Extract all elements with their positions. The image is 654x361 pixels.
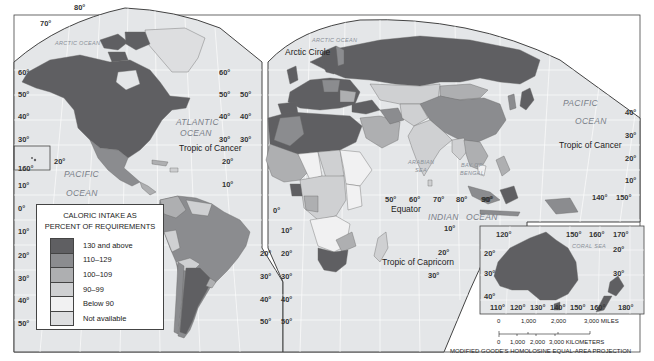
scale-km-3000: 3,000 KILOMETERS [549, 339, 604, 345]
lat-label: 0° [18, 205, 25, 213]
lon-label: 90° [481, 196, 492, 204]
legend-swatch [50, 282, 74, 297]
legend-label: 110–129 [83, 255, 112, 264]
arctic-circle-label: Arctic Circle [285, 48, 330, 57]
bay-of-bengal-label-2: BENGAL [460, 171, 484, 177]
lat-label: 20° [18, 252, 29, 260]
scale-miles-3000: 3,000 MILES [584, 318, 619, 324]
indian-ocean-label-1: INDIAN [428, 213, 459, 222]
pacific-west-label-2: OCEAN [66, 189, 98, 198]
arabian-sea-label-1: ARABIAN [408, 160, 434, 166]
scale-km-2000: 2,000 [530, 339, 545, 345]
arctic-ocean-west-label: ARCTIC OCEAN [55, 41, 100, 47]
lat-label: 60° [18, 69, 29, 77]
lat-label: 30° [18, 275, 29, 283]
lat-label: 70° [40, 20, 51, 28]
scale-miles-2000: 2,000 [551, 318, 566, 324]
projection-label: MODIFIED GOODE'S HOMOLOSINE EQUAL-AREA P… [450, 348, 631, 354]
lat-label: 10° [444, 225, 455, 233]
lon-label: 110° [490, 304, 505, 312]
lat-label: 60° [219, 69, 230, 77]
lat-label: 30° [281, 273, 292, 281]
pacific-west-label-1: PACIFIC [64, 170, 99, 179]
lat-label: 20° [281, 250, 292, 258]
scale-miles-0: 0 [497, 318, 500, 324]
legend-label: 90–99 [83, 285, 104, 294]
lat-label: 30° [18, 136, 29, 144]
lat-label: 20° [613, 246, 624, 254]
legend: CALORIC INTAKE AS PERCENT OF REQUIREMENT… [36, 204, 164, 330]
lat-label: 40° [18, 113, 29, 121]
arctic-ocean-east-label: ARCTIC OCEAN [312, 38, 357, 44]
lat-label: 80° [74, 4, 85, 12]
scale-bar [499, 331, 590, 337]
lon-label: 150° [566, 231, 582, 239]
lat-label: 20° [484, 250, 495, 258]
pacific-east-label-1: PACIFIC [563, 99, 598, 108]
legend-label: 130 and above [83, 241, 133, 250]
legend-swatch [50, 238, 74, 253]
lon-label: 140° [592, 194, 608, 202]
lat-label: 20° [438, 249, 449, 257]
legend-title-line2: PERCENT OF REQUIREMENTS [37, 221, 163, 232]
lon-label: 150° [616, 194, 632, 202]
lon-label: 150° [570, 304, 586, 312]
legend-swatch [50, 267, 74, 282]
atlantic-ocean-label-1: ATLANTIC [176, 118, 219, 127]
legend-title-line1: CALORIC INTAKE AS [37, 210, 163, 221]
lat-label: 40° [281, 296, 292, 304]
legend-label: 100–109 [83, 270, 112, 279]
lat-label: 10° [18, 182, 29, 190]
lat-label: 30° [240, 136, 251, 144]
lat-label: 50° [18, 91, 29, 99]
coral-sea-label: CORAL SEA [572, 244, 606, 250]
lat-label: 50° [240, 91, 251, 99]
legend-swatch [50, 296, 74, 311]
lat-label: 0° [273, 207, 280, 215]
indian-ocean-label-2: OCEAN [466, 213, 498, 222]
lat-label: 30° [428, 272, 439, 280]
arabian-sea-label-2: SEA [415, 168, 427, 174]
lat-label: 40° [18, 297, 29, 305]
lon-label: 180° [618, 304, 634, 312]
lat-label: 50° [219, 91, 230, 99]
lat-label: 20° [625, 155, 636, 163]
legend-item: 110–129 [50, 253, 133, 268]
lat-label: 40° [625, 109, 636, 117]
tropic-of-cancer-atlantic-label: Tropic of Cancer [179, 144, 242, 153]
lat-label: 40° [240, 113, 251, 121]
scale-km-0: 0 [497, 339, 500, 345]
lon-label: 60° [409, 196, 420, 204]
lon-label: 120° [496, 231, 512, 239]
tropic-of-capricorn-label: Tropic of Capricorn [382, 258, 454, 267]
lon-label: 130° [530, 304, 546, 312]
lat-label: 50° [281, 318, 292, 326]
lon-label: 120° [510, 304, 526, 312]
lat-label: 10° [625, 177, 636, 185]
lat-label: 50° [18, 320, 29, 328]
lon-label: 70° [433, 196, 444, 204]
legend-item: 130 and above [50, 238, 133, 253]
lat-label: 10° [222, 181, 233, 189]
lat-label: 30° [613, 270, 624, 278]
legend-swatch [50, 311, 74, 326]
lon-label: 50° [385, 196, 396, 204]
bay-of-bengal-label-1: BAY OF [461, 163, 482, 169]
lat-label: 20° [260, 250, 271, 258]
legend-item: 100–109 [50, 267, 133, 282]
lon-label: 160° [18, 165, 34, 173]
legend-item: 90–99 [50, 282, 133, 297]
lat-label: 40° [260, 296, 271, 304]
lat-label: 30° [484, 270, 495, 278]
equator-label: Equator [391, 205, 421, 214]
legend-label: Below 90 [83, 299, 114, 308]
lat-label: 30° [260, 273, 271, 281]
legend-item: Below 90 [50, 296, 133, 311]
legend-label: Not available [83, 314, 126, 323]
lon-label: 140° [550, 304, 566, 312]
lat-label: 20° [54, 158, 65, 166]
scale-km-1000: 1,000 [510, 339, 525, 345]
legend-item: Not available [50, 311, 133, 326]
legend-swatch [50, 253, 74, 268]
pacific-east-label-2: OCEAN [575, 117, 607, 126]
